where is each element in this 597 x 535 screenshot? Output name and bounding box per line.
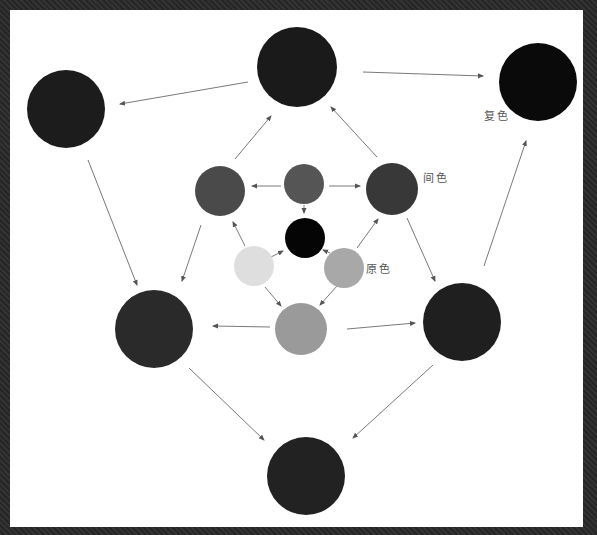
arrow-icon (357, 219, 378, 248)
color-circle-compound-bottom (267, 437, 345, 515)
color-relationship-diagram (0, 0, 597, 535)
arrow-icon (271, 251, 283, 257)
arrow-icon (323, 250, 330, 253)
arrow-icon (189, 368, 264, 440)
arrow-icon (213, 326, 270, 327)
arrow-icon (88, 160, 137, 285)
color-circle-secondary-top (284, 164, 324, 204)
arrow-icon (353, 365, 433, 438)
color-circle-primary-right (324, 248, 364, 288)
color-circle-compound-mid-left (115, 290, 193, 368)
color-circle-primary-left (234, 246, 274, 286)
label-compound-color: 复色 (484, 107, 510, 123)
arrow-icon (407, 218, 435, 281)
color-circle-secondary-bottom (275, 303, 327, 355)
arrow-icon (235, 116, 271, 159)
color-circle-secondary-left (195, 166, 245, 216)
label-primary-color: 原色 (366, 260, 392, 276)
arrow-icon (320, 286, 337, 305)
arrow-icon (331, 107, 377, 157)
color-circle-compound-top (257, 27, 337, 107)
arrow-icon (484, 141, 526, 266)
arrow-icon (233, 222, 245, 246)
arrow-icon (347, 323, 415, 329)
label-secondary-color: 间色 (423, 169, 449, 185)
color-circle-compound-top-right (499, 43, 577, 121)
arrow-icon (120, 82, 248, 104)
arrow-icon (363, 72, 483, 76)
arrow-icon (182, 225, 201, 281)
circles-layer (27, 27, 577, 515)
arrow-icon (265, 287, 281, 306)
color-circle-compound-mid-right (423, 283, 501, 361)
color-circle-compound-top-left (27, 70, 105, 148)
color-circle-secondary-right (366, 163, 418, 215)
color-circle-primary-center (285, 218, 325, 258)
